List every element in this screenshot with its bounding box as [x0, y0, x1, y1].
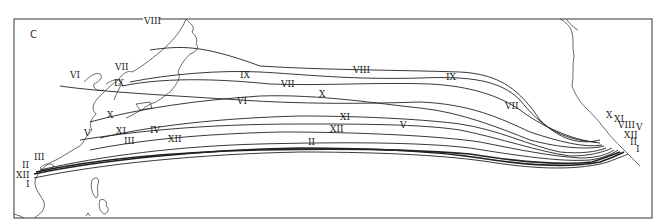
label-x-mid: X [319, 89, 326, 99]
track-ix [130, 71, 596, 142]
label-vii-mid: VII [280, 79, 295, 89]
track-xii [40, 143, 618, 170]
label-ix-east: IX [446, 72, 457, 82]
label-x-west: X [107, 110, 114, 120]
asia-coastline [34, 19, 198, 218]
label-xi-mid: XI [340, 112, 350, 122]
label-xi-west: XI [116, 126, 126, 136]
label-vi-mid: VI [236, 96, 247, 106]
label-i-west: I [26, 179, 30, 189]
pacific-track-map: C VIII VII VI IX [0, 0, 663, 223]
label-vii: VII [114, 62, 129, 72]
panel-label: C [30, 29, 37, 40]
label-ii-west: II [22, 160, 30, 170]
label-vii-east: VII [504, 101, 519, 111]
track-viii [150, 47, 600, 141]
label-iv: IV [150, 125, 161, 135]
label-viii-mid: VIII [352, 65, 371, 75]
north-america-coastline [560, 19, 640, 166]
label-v-mid: V [399, 120, 407, 130]
label-xii-mid: XII [330, 124, 344, 134]
label-ix-mid: IX [240, 70, 251, 80]
label-i-east: I [636, 144, 640, 154]
label-v-west: V [83, 128, 91, 138]
label-x-east: X [606, 110, 613, 120]
label-vi: VI [69, 70, 80, 80]
label-viii-east: VIII [617, 120, 636, 130]
label-iii: III [124, 136, 135, 146]
label-iii-west: III [34, 152, 45, 162]
label-xii-west: XII [168, 134, 182, 144]
label-viii: VIII [143, 16, 162, 26]
label-ii-mid: II [308, 137, 316, 147]
label-ix: IX [114, 78, 125, 88]
